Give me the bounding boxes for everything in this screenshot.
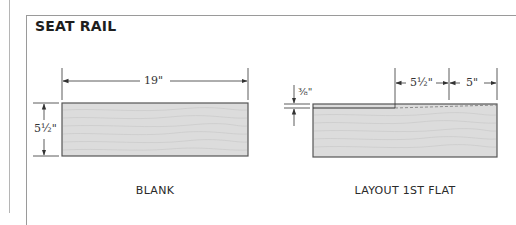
blank-board [62,103,248,156]
layout-caption: LAYOUT 1ST FLAT [355,184,456,197]
layout-segment-1-label: 5½" [410,77,433,89]
blank-caption: BLANK [136,184,174,197]
blank-length-label: 19" [144,75,163,87]
blank-width-label: 5½" [34,123,57,135]
layout-segment-2-label: 5" [466,77,478,89]
layout-offset-label: ⅜" [298,86,312,98]
layout-board [313,104,497,157]
